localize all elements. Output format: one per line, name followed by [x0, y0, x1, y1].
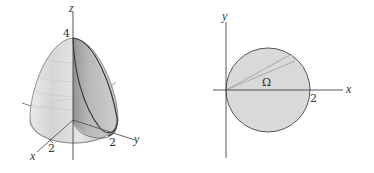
x-tick-label: 2: [48, 142, 55, 155]
x-axis-label: x: [29, 149, 36, 163]
solid-3d-figure: z 4 x 2 2 y: [22, 1, 140, 163]
z-tick-label: 4: [63, 27, 70, 40]
y-axis-label: y: [133, 132, 140, 146]
region-omega-label: Ω: [262, 76, 271, 89]
x-axis-2d-label: x: [345, 82, 352, 96]
y-axis-2d-label: y: [221, 9, 228, 23]
x-tick-2d-label: 2: [310, 92, 317, 105]
y-tick-label: 2: [109, 136, 116, 149]
z-axis-label: z: [68, 1, 74, 15]
region-2d-figure: y x 2 Ω: [213, 9, 352, 158]
diagram-canvas: z 4 x 2 2 y y x 2 Ω: [0, 0, 374, 173]
